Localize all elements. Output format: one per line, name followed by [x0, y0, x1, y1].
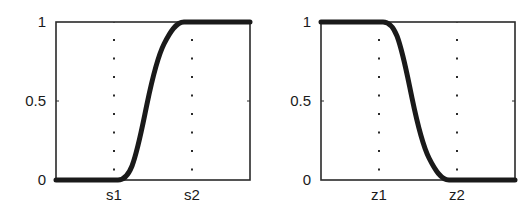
right-xtick-z2: z2	[449, 186, 465, 203]
right-xtick-z1: z1	[371, 186, 387, 203]
left-plot: 1 0.5 0 s1 s2	[25, 13, 250, 203]
right-ytick-1: 1	[303, 13, 311, 30]
left-ytick-half: 0.5	[25, 92, 46, 109]
left-s-curve	[56, 22, 250, 180]
right-plot-axes-box	[321, 22, 515, 180]
left-xtick-s1: s1	[106, 186, 122, 203]
right-plot: 1 0.5 0 z1 z2	[290, 13, 515, 203]
left-ytick-1: 1	[38, 13, 46, 30]
right-ytick-0: 0	[303, 171, 311, 188]
left-xtick-s2: s2	[184, 186, 200, 203]
right-ytick-half: 0.5	[290, 92, 311, 109]
left-ytick-0: 0	[38, 171, 46, 188]
right-z-curve	[321, 22, 515, 180]
left-plot-axes-box	[56, 22, 250, 180]
figure: 1 0.5 0 s1 s2 1 0.5 0 z1 z2	[0, 0, 530, 210]
